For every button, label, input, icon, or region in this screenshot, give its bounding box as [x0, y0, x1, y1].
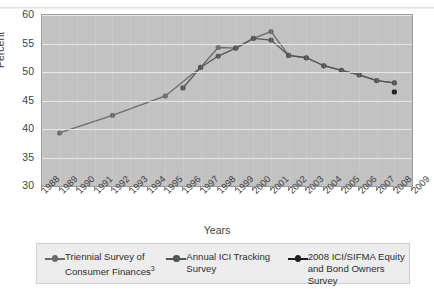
gridline-60 [42, 15, 412, 16]
plot-area [41, 14, 413, 187]
chart-figure: Percent 30354045505560 19881989199019911… [0, 0, 434, 289]
legend-item-0[interactable]: Triennial Survey ofConsumer Finances3 [41, 251, 162, 278]
legend-label: Annual ICI TrackingSurvey [186, 251, 270, 275]
legend-marker-icon [45, 253, 65, 264]
vgridline-2009 [412, 15, 413, 186]
x-axis-title: Years [0, 224, 434, 236]
legend-item-2[interactable]: 2008 ICI/SIFMA Equityand Bond Owners Sur… [284, 251, 405, 287]
legend-item-1[interactable]: Annual ICI TrackingSurvey [162, 251, 283, 275]
y-tick-60: 60 [22, 8, 34, 20]
gridline-45 [42, 101, 412, 102]
gridline-55 [42, 44, 412, 45]
chart-title-fragment [0, 0, 434, 7]
y-tick-35: 35 [22, 151, 34, 163]
y-axis-tick-labels: 30354045505560 [0, 0, 38, 201]
y-tick-45: 45 [22, 94, 34, 106]
chart-legend: Triennial Survey ofConsumer Finances3Ann… [36, 243, 410, 284]
y-tick-40: 40 [22, 122, 34, 134]
series-line-0 [60, 32, 395, 133]
x-axis-tick-labels: 1988198919901991199219931994199519961997… [0, 188, 434, 222]
legend-label: Triennial Survey ofConsumer Finances3 [65, 251, 155, 278]
gridline-35 [42, 158, 412, 159]
y-tick-55: 55 [22, 37, 34, 49]
title-divider [0, 7, 434, 9]
gridline-40 [42, 129, 412, 130]
legend-marker-icon [166, 253, 186, 264]
gridline-50 [42, 72, 412, 73]
legend-label: 2008 ICI/SIFMA Equityand Bond Owners Sur… [308, 251, 405, 287]
legend-marker-icon [288, 253, 308, 264]
y-tick-50: 50 [22, 65, 34, 77]
